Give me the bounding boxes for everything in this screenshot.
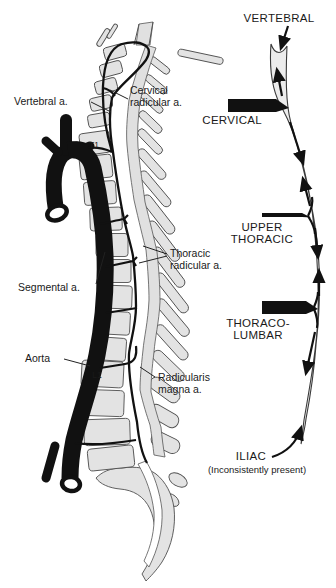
- label-l1: L1: [92, 370, 102, 380]
- label-cervical-radicular-2: radicular a.: [130, 96, 182, 108]
- cervical-top-fragment: [177, 49, 223, 65]
- label-radicularis-magna-2: magna a.: [158, 383, 202, 395]
- label-cervical-radicular-1: Cervical: [130, 84, 168, 96]
- spine-illustration: Vertebral a. Cervical radicular a. Thora…: [14, 22, 224, 581]
- label-iliac: ILIAC: [236, 450, 266, 462]
- sacrum: [96, 467, 175, 581]
- label-aorta: Aorta: [25, 352, 50, 364]
- diagram-canvas: Vertebral a. Cervical radicular a. Thora…: [0, 0, 336, 588]
- sacral-process: [166, 470, 189, 490]
- cervical-vertebra: [87, 112, 111, 129]
- upper-thoracic-feeder-bar: [262, 213, 311, 218]
- label-vertebral: VERTEBRAL: [244, 12, 315, 24]
- cervical-vertebra: [103, 43, 128, 61]
- flow-arrow-down: [315, 228, 318, 257]
- vertebral-inflow-arrow: [281, 26, 288, 48]
- figure-spinal-cord-arterial-supply: Vertebral a. Cervical radicular a. Thora…: [0, 0, 336, 588]
- label-radicularis-magna-1: Radicularis: [158, 371, 210, 383]
- lumbar-vertebra: [87, 445, 135, 472]
- label-iliac-note: (Inconsistently present): [208, 464, 306, 475]
- label-vertebral-a: Vertebral a.: [14, 95, 68, 107]
- label-t1: T1: [89, 140, 99, 150]
- label-segmental-a: Segmental a.: [18, 281, 80, 293]
- thoraco-lumbar-junction-branches: [314, 292, 318, 328]
- label-cervical: CERVICAL: [202, 114, 262, 126]
- iliac-inflow-arrow: [272, 428, 301, 457]
- arch-branch: [46, 141, 58, 152]
- cervical-vertebra: [99, 60, 124, 78]
- iliac-branch: [46, 446, 55, 478]
- aorta-cut-end-bottom: [61, 476, 81, 493]
- label-thoraco-lumbar-2: LUMBAR: [233, 329, 283, 341]
- thoraco-lumbar-feeder-bar: [262, 301, 318, 314]
- label-thoracic-radicular-2: radicular a.: [170, 259, 222, 271]
- label-thoraco-lumbar-1: THORACO-: [226, 317, 290, 329]
- label-upper-thoracic-2: THORACIC: [231, 233, 293, 245]
- label-thoracic-radicular-1: Thoracic: [170, 247, 210, 259]
- label-upper-thoracic-1: UPPER: [241, 221, 282, 233]
- flow-arrow-down: [290, 122, 303, 163]
- feeder-schematic: VERTEBRAL CERVICAL UPPER THORACIC THORAC…: [202, 12, 319, 475]
